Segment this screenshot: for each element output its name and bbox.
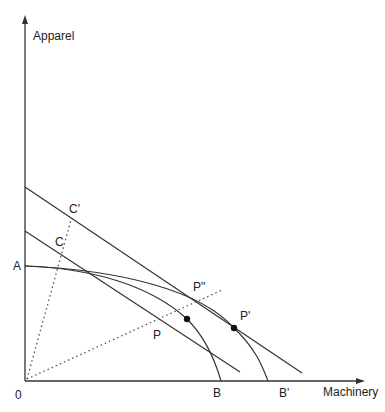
point-b-label: B [213, 387, 221, 399]
y-axis-label: Apparel [33, 30, 74, 42]
ppf-curve-original [25, 266, 221, 381]
price-line-shifted [25, 187, 302, 373]
ppf-diagram [0, 0, 385, 412]
point-a-label: A [13, 260, 21, 272]
point-c-label: C [55, 236, 64, 248]
x-axis-label: Machinery [323, 386, 378, 398]
price-line-original [25, 231, 240, 372]
x-axis-arrow-icon [356, 378, 365, 384]
ray-to-c-prime [27, 220, 71, 379]
ray-to-p-double-prime [27, 290, 222, 379]
axes [25, 20, 360, 381]
point-p-marker [184, 316, 190, 322]
point-c-prime-label: C' [69, 203, 80, 215]
y-axis-arrow-icon [22, 15, 28, 24]
point-p-double-prime-label: P" [193, 281, 205, 293]
point-p-prime-label: P' [240, 310, 250, 322]
point-b-prime-label: B' [279, 387, 289, 399]
origin-label: 0 [15, 389, 22, 401]
point-p-label: P [153, 329, 161, 341]
point-p-prime-marker [231, 325, 237, 331]
ppf-curve-shifted [25, 266, 268, 381]
